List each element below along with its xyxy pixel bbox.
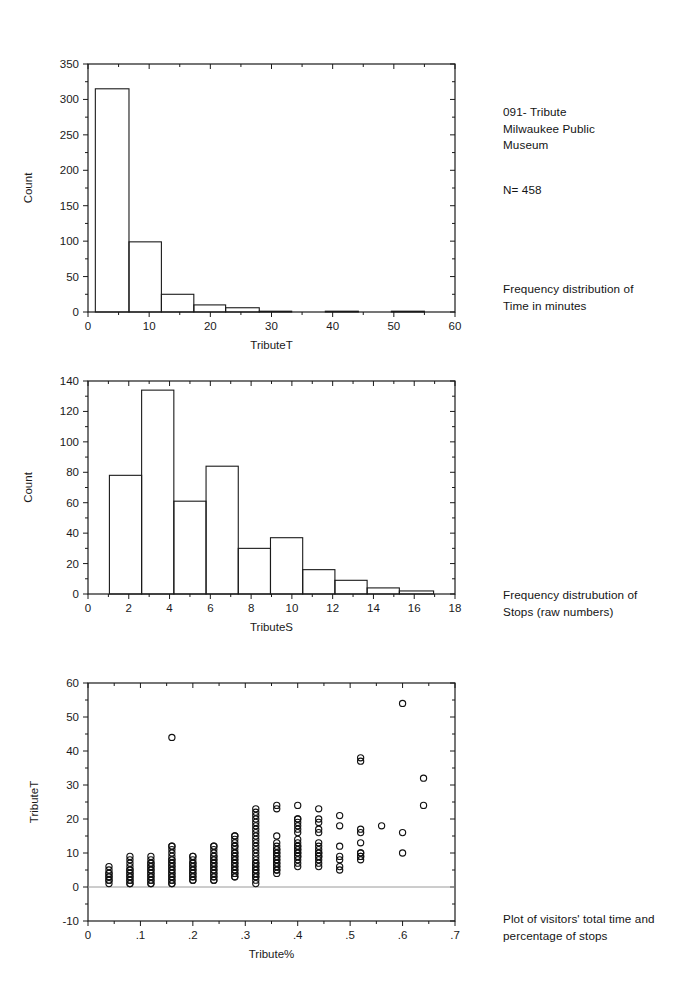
scatter-point xyxy=(420,802,426,808)
caption-chart-2: Frequency distrubution of Stops (raw num… xyxy=(503,587,688,620)
x-axis-label: Tribute% xyxy=(249,948,295,960)
x-tick-label: 60 xyxy=(449,320,462,332)
x-tick-label: .6 xyxy=(398,929,408,941)
histogram-bar xyxy=(303,570,335,594)
y-tick-label: 60 xyxy=(66,677,79,689)
x-axis-label: TributeT xyxy=(250,339,292,351)
scatter-point xyxy=(316,806,322,812)
x-tick-label: 6 xyxy=(207,602,213,614)
y-tick-label: 250 xyxy=(60,129,79,141)
chart-tributeS-histogram-svg: 024681012141618020406080100120140Tribute… xyxy=(0,366,480,666)
x-tick-label: 0 xyxy=(85,602,91,614)
x-tick-label: 20 xyxy=(204,320,217,332)
histogram-bar xyxy=(259,311,291,312)
y-tick-label: 50 xyxy=(66,271,79,283)
figure-page: 0102030405060050100150200250300350Tribut… xyxy=(0,0,692,995)
x-tick-label: .3 xyxy=(240,929,250,941)
chart-tributeS-histogram: 024681012141618020406080100120140Tribute… xyxy=(0,366,480,666)
y-tick-label: 40 xyxy=(66,527,79,539)
x-tick-label: .4 xyxy=(293,929,303,941)
y-tick-label: 80 xyxy=(66,466,79,478)
x-axis-label: TributeS xyxy=(250,621,293,633)
caption-chart-3: Plot of visitors' total time and percent… xyxy=(503,911,692,944)
histogram-bar xyxy=(174,501,206,594)
scatter-point xyxy=(337,813,343,819)
x-tick-label: 16 xyxy=(408,602,421,614)
scatter-point xyxy=(169,734,175,740)
histogram-bar xyxy=(325,311,358,312)
histogram-bar xyxy=(367,588,399,594)
x-tick-label: 0 xyxy=(85,929,91,941)
y-tick-label: 350 xyxy=(60,58,79,70)
x-tick-label: 10 xyxy=(285,602,298,614)
scatter-point xyxy=(274,833,280,839)
plot-frame xyxy=(88,64,455,312)
x-tick-label: .5 xyxy=(345,929,355,941)
x-tick-label: 30 xyxy=(265,320,278,332)
y-tick-label: 100 xyxy=(60,235,79,247)
scatter-point xyxy=(420,775,426,781)
scatter-point xyxy=(379,823,385,829)
y-tick-label: 20 xyxy=(66,558,79,570)
histogram-bar xyxy=(95,89,129,312)
y-tick-label: 30 xyxy=(66,779,79,791)
x-tick-label: 4 xyxy=(166,602,173,614)
histogram-bar xyxy=(109,475,141,594)
histogram-bars xyxy=(109,390,433,594)
plot-frame xyxy=(88,381,455,594)
histogram-bar xyxy=(206,466,238,594)
y-tick-label: 200 xyxy=(60,164,79,176)
scatter-point xyxy=(337,843,343,849)
y-tick-label: 10 xyxy=(66,847,79,859)
y-tick-label: 60 xyxy=(66,497,79,509)
histogram-bar xyxy=(226,308,260,312)
plot-frame xyxy=(88,683,455,921)
scatter-point xyxy=(399,830,405,836)
scatter-points xyxy=(106,700,427,886)
histogram-bar xyxy=(129,242,161,312)
y-axis-label: TributeT xyxy=(28,781,40,823)
y-tick-label: 120 xyxy=(60,405,79,417)
scatter-point xyxy=(358,840,364,846)
y-tick-label: -10 xyxy=(62,915,79,927)
histogram-bar xyxy=(391,311,424,312)
y-tick-label: 50 xyxy=(66,711,79,723)
x-tick-label: 0 xyxy=(85,320,91,332)
x-tick-label: 2 xyxy=(126,602,132,614)
x-tick-label: 40 xyxy=(326,320,339,332)
y-tick-label: 0 xyxy=(73,588,79,600)
histogram-bar xyxy=(399,591,433,594)
scatter-point xyxy=(295,802,301,808)
y-tick-label: 150 xyxy=(60,200,79,212)
histogram-bar xyxy=(335,580,367,594)
histogram-bar xyxy=(270,538,302,594)
chart-tributeT-vs-percent-scatter: 0.1.2.3.4.5.6.7-100102030405060Tribute%T… xyxy=(0,666,480,992)
x-tick-label: .2 xyxy=(188,929,198,941)
figure-title-block: 091- Tribute Milwaukee Public Museum xyxy=(503,104,683,154)
scatter-point xyxy=(399,700,405,706)
y-axis-label: Count xyxy=(22,471,34,502)
y-tick-label: 0 xyxy=(73,306,79,318)
x-tick-label: 18 xyxy=(449,602,462,614)
histogram-bar xyxy=(142,390,174,594)
x-tick-label: 50 xyxy=(387,320,400,332)
y-tick-label: 20 xyxy=(66,813,79,825)
histogram-bar xyxy=(161,294,193,312)
x-tick-label: 10 xyxy=(143,320,156,332)
chart-tributeT-vs-percent-scatter-svg: 0.1.2.3.4.5.6.7-100102030405060Tribute%T… xyxy=(0,666,480,992)
y-tick-label: 140 xyxy=(60,375,79,387)
x-tick-label: 14 xyxy=(367,602,380,614)
y-axis-label: Count xyxy=(22,172,34,203)
caption-chart-1: Frequency distribution of Time in minute… xyxy=(503,281,688,314)
x-tick-label: 8 xyxy=(248,602,254,614)
x-tick-label: .1 xyxy=(136,929,146,941)
sample-size-label: N= 458 xyxy=(503,182,683,199)
y-tick-label: 100 xyxy=(60,436,79,448)
histogram-bars xyxy=(95,89,424,312)
y-tick-label: 300 xyxy=(60,93,79,105)
y-tick-label: 40 xyxy=(66,745,79,757)
chart-tributeT-histogram-svg: 0102030405060050100150200250300350Tribut… xyxy=(0,40,480,360)
histogram-bar xyxy=(194,305,226,312)
scatter-point xyxy=(337,823,343,829)
histogram-bar xyxy=(238,548,270,594)
